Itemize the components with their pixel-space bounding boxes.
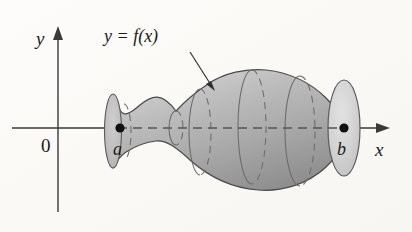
x-axis-label: x xyxy=(374,139,384,160)
point-b-dot xyxy=(339,123,348,132)
point-a-label: a xyxy=(113,139,122,159)
point-b-label: b xyxy=(337,139,346,159)
origin-label: 0 xyxy=(41,135,51,156)
solid-of-revolution-figure: y x 0 y = f(x) a b xyxy=(0,0,412,232)
function-equation-label: y = f(x) xyxy=(102,26,158,47)
figure-canvas: y x 0 y = f(x) a b xyxy=(0,0,412,232)
point-a-dot xyxy=(115,123,124,132)
y-axis-label: y xyxy=(34,28,45,49)
